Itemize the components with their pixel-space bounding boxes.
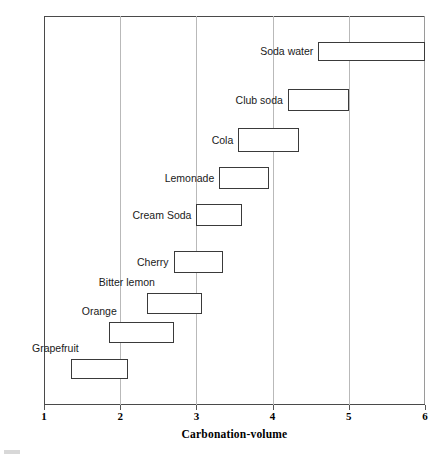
plot-border-top	[44, 16, 425, 17]
plot-border-right	[424, 16, 425, 405]
x-tick-label: 1	[29, 410, 59, 422]
bar-category-label: Grapefruit	[0, 342, 79, 355]
range-bar	[318, 42, 425, 61]
bar-category-label: Bitter lemon	[0, 276, 155, 289]
range-bar	[238, 128, 299, 152]
bar-category-label: Cola	[73, 134, 233, 147]
carbonation-volume-chart: Name of Product Soda waterClub sodaColaL…	[0, 0, 437, 458]
bar-category-label: Orange	[0, 305, 117, 318]
range-bar	[196, 204, 242, 226]
gridline-4	[273, 16, 274, 405]
range-bar	[109, 322, 174, 343]
range-bar	[174, 251, 224, 273]
bar-category-label: Cherry	[9, 256, 169, 269]
scan-artifact	[4, 450, 20, 454]
x-tick-label: 3	[181, 410, 211, 422]
x-tick-label: 4	[258, 410, 288, 422]
range-bar	[147, 293, 203, 314]
x-axis-line	[44, 404, 425, 405]
bar-category-label: Soda water	[153, 45, 313, 58]
range-bar	[288, 89, 349, 111]
range-bar	[71, 359, 128, 379]
bar-category-label: Lemonade	[54, 172, 214, 185]
bar-category-label: Club soda	[123, 94, 283, 107]
x-tick-label: 6	[410, 410, 437, 422]
bar-category-label: Cream Soda	[31, 209, 191, 222]
plot-area: Soda waterClub sodaColaLemonadeCream Sod…	[44, 16, 425, 405]
range-bar	[219, 167, 269, 189]
x-tick-label: 2	[105, 410, 135, 422]
x-axis-title: Carbonation-volume	[44, 428, 425, 440]
x-tick-label: 5	[334, 410, 364, 422]
gridline-5	[349, 16, 350, 405]
